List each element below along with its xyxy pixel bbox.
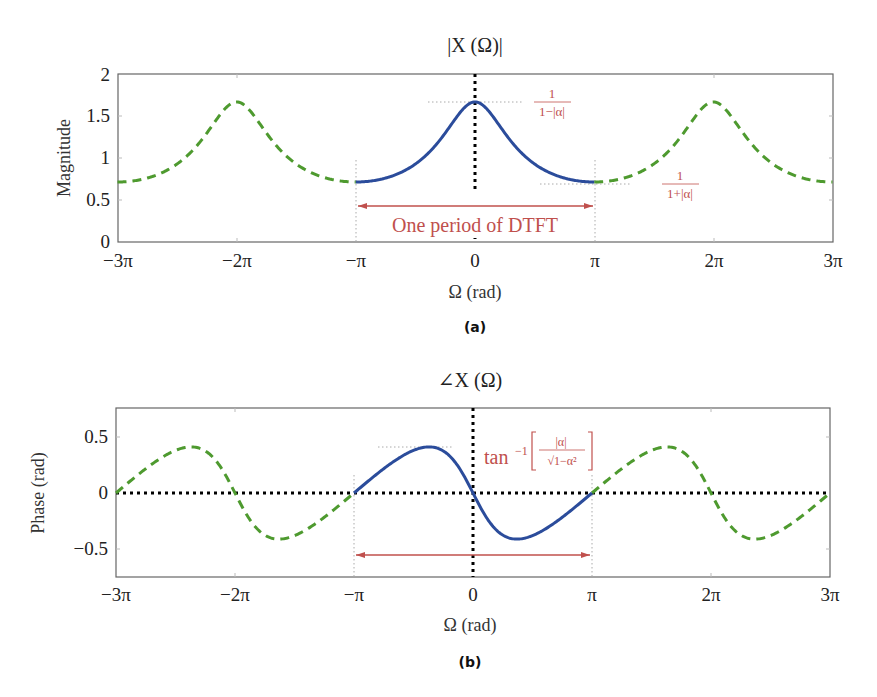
svg-text:1: 1 — [549, 86, 556, 101]
svg-text:1−|α|: 1−|α| — [539, 104, 565, 119]
caption-b: (b) — [459, 654, 482, 670]
svg-text:2π: 2π — [701, 584, 721, 605]
svg-text:−π: −π — [344, 584, 365, 605]
magnitude-x-ticks: −3π −2π −π 0 π 2π 3π — [103, 250, 843, 271]
svg-text:−1: −1 — [515, 444, 528, 458]
magnitude-y-axis-label: Magnitude — [54, 119, 74, 197]
svg-text:tan: tan — [484, 446, 508, 468]
magnitude-plot-title: |X (Ω)| — [447, 34, 503, 57]
phase-x-ticks: −3π −2π −π 0 π 2π 3π — [101, 584, 840, 605]
caption-a: (a) — [464, 319, 486, 335]
svg-text:2: 2 — [101, 64, 111, 85]
svg-text:π: π — [590, 250, 600, 271]
magnitude-periodic-extension-curve — [117, 102, 832, 182]
magnitude-y-ticks: 0 0.5 1 1.5 2 — [86, 64, 110, 252]
svg-text:0: 0 — [101, 231, 111, 252]
dtft-figure: |X (Ω)| 0 0.5 1 1.5 2 −3π −2π −π 0 π 2π — [0, 0, 877, 697]
svg-text:0: 0 — [99, 482, 109, 503]
svg-text:1: 1 — [677, 168, 684, 183]
svg-text:0: 0 — [468, 584, 478, 605]
magnitude-peak-annotation: 1 1−|α| — [534, 86, 571, 119]
svg-text:−2π: −2π — [222, 250, 252, 271]
svg-text:√1−α²: √1−α² — [547, 454, 577, 468]
phase-y-axis-label: Phase (rad) — [28, 452, 49, 533]
svg-text:1: 1 — [101, 147, 111, 168]
svg-text:1.5: 1.5 — [86, 105, 110, 126]
one-period-label: One period of DTFT — [392, 214, 558, 237]
svg-text:0: 0 — [470, 250, 480, 271]
svg-text:−3π: −3π — [103, 250, 133, 271]
one-period-arrow: One period of DTFT — [358, 206, 593, 238]
magnitude-min-annotation: 1 1+|α| — [662, 168, 699, 201]
phase-plot-title: ∠X (Ω) — [438, 369, 502, 392]
magnitude-plot: |X (Ω)| 0 0.5 1 1.5 2 −3π −2π −π 0 π 2π — [54, 34, 843, 335]
svg-text:−2π: −2π — [220, 584, 250, 605]
svg-text:0.5: 0.5 — [86, 189, 110, 210]
svg-text:|α|: |α| — [555, 435, 566, 449]
phase-y-ticks: 0.5 0 −0.5 — [74, 426, 108, 559]
phase-x-axis-label: Ω (rad) — [444, 615, 497, 636]
svg-text:−0.5: −0.5 — [74, 538, 108, 559]
svg-text:1+|α|: 1+|α| — [667, 186, 693, 201]
svg-text:3π: 3π — [820, 584, 840, 605]
magnitude-x-axis-label: Ω (rad) — [449, 282, 502, 303]
svg-text:−3π: −3π — [101, 584, 131, 605]
svg-text:3π: 3π — [823, 250, 843, 271]
svg-text:2π: 2π — [704, 250, 724, 271]
svg-text:π: π — [587, 584, 597, 605]
phase-peak-annotation: tan −1 |α| √1−α² — [484, 432, 592, 470]
svg-text:0.5: 0.5 — [84, 426, 108, 447]
phase-plot: ∠X (Ω) 0.5 0 −0.5 −3π −2π −π 0 π 2π 3π Ω… — [28, 369, 840, 670]
svg-text:−π: −π — [346, 250, 367, 271]
